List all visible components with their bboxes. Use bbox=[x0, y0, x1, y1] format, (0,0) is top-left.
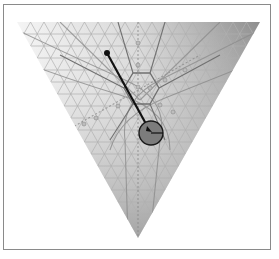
pointer-handle[interactable] bbox=[104, 50, 110, 56]
marker-dot bbox=[136, 63, 140, 67]
ternary-diagram bbox=[0, 0, 279, 259]
marker-dot bbox=[136, 85, 140, 89]
marker-dot bbox=[82, 122, 86, 126]
marker-dot bbox=[183, 68, 187, 72]
marker-dot bbox=[116, 104, 120, 108]
dial[interactable] bbox=[139, 121, 163, 145]
marker-dot bbox=[94, 116, 98, 120]
marker-dot bbox=[163, 78, 167, 82]
marker-dot bbox=[148, 86, 152, 90]
marker-dot bbox=[136, 41, 140, 45]
marker-dot bbox=[171, 110, 175, 114]
marker-dot bbox=[158, 103, 162, 107]
